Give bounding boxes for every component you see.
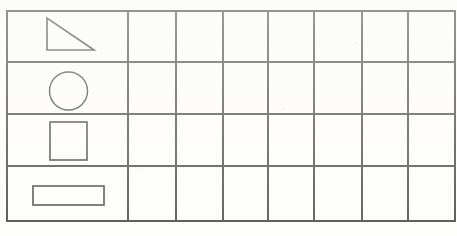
cell-r1c5[interactable] [268, 11, 314, 62]
cell-r1c6[interactable] [314, 11, 362, 62]
cell-r2c8[interactable] [408, 62, 455, 114]
cell-r4c6[interactable] [314, 166, 362, 221]
cell-r3c7[interactable] [362, 114, 408, 166]
rectangle-icon [33, 186, 104, 205]
cell-r3c2[interactable] [128, 114, 176, 166]
cell-r1c4[interactable] [223, 11, 268, 62]
cell-r4c3[interactable] [176, 166, 223, 221]
cell-r1c2[interactable] [128, 11, 176, 62]
cell-r3c8[interactable] [408, 114, 455, 166]
cell-r3c5[interactable] [268, 114, 314, 166]
cell-r3c6[interactable] [314, 114, 362, 166]
cell-r1c7[interactable] [362, 11, 408, 62]
right-triangle-icon [47, 18, 94, 50]
cell-r4c5[interactable] [268, 166, 314, 221]
square-icon [50, 122, 87, 160]
cell-r2c6[interactable] [314, 62, 362, 114]
cell-r4c4[interactable] [223, 166, 268, 221]
cell-r4c7[interactable] [362, 166, 408, 221]
cell-r2c7[interactable] [362, 62, 408, 114]
shape-grid-table [0, 0, 457, 236]
cell-r2c4[interactable] [223, 62, 268, 114]
cell-r2c5[interactable] [268, 62, 314, 114]
cell-r4c8[interactable] [408, 166, 455, 221]
circle-icon [50, 72, 88, 110]
worksheet-canvas: Right triangle Circle Square Rectangle S… [0, 0, 457, 236]
cell-r1c3[interactable] [176, 11, 223, 62]
cell-r3c4[interactable] [223, 114, 268, 166]
cell-r2c2[interactable] [128, 62, 176, 114]
cell-r1c8[interactable] [408, 11, 455, 62]
cell-r4c2[interactable] [128, 166, 176, 221]
cell-r2c3[interactable] [176, 62, 223, 114]
cell-r3c3[interactable] [176, 114, 223, 166]
